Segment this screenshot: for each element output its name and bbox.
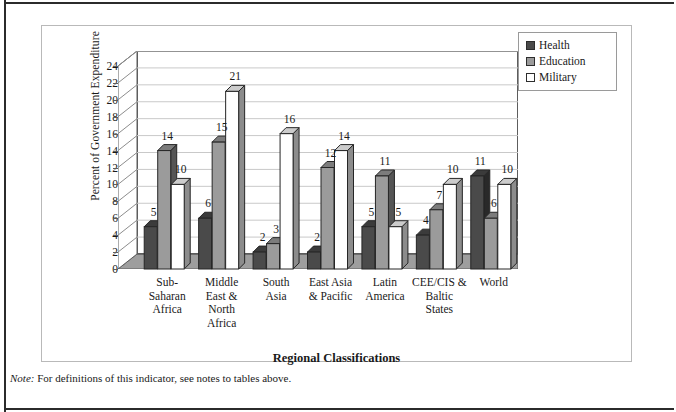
page-rule-left [4,0,6,412]
bar-value-label: 3 [264,224,288,235]
bar-value-label: 10 [169,164,193,175]
y-tick-mark [113,269,118,270]
bar-military-0[interactable] [171,178,190,269]
x-axis-title: Regional Classifications [42,351,631,366]
legend-label-military: Military [539,72,577,83]
bar-military-6[interactable] [498,178,517,269]
legend-item-education[interactable]: Education [526,56,610,67]
bar-value-label: 21 [223,71,247,82]
bar-military-4[interactable] [389,221,408,269]
chart-legend: Health Education Military [518,32,617,91]
figure-note: Note: For definitions of this indicator,… [10,372,291,384]
x-category-line: World [460,276,528,290]
legend-swatch-education [526,57,535,66]
bar-value-label: 10 [441,164,465,175]
bar-military-2[interactable] [280,128,299,269]
bar-value-label: 5 [386,207,410,218]
bar-value-label: 5 [359,207,383,218]
page-rule-bottom [4,408,674,410]
x-category-line: Africa [188,317,256,331]
legend-item-health[interactable]: Health [526,40,610,51]
x-category-line: North [188,303,256,317]
x-category-label: World [460,276,528,290]
x-category-line: Baltic [405,290,473,304]
bars-layer: 51410615212316212145115471011610 [118,51,518,269]
bar-value-label: 7 [427,190,451,201]
bar-value-label: 2 [305,232,329,243]
bar-value-label: 11 [468,156,492,167]
page-rule-top [4,2,674,4]
bar-value-label: 11 [373,156,397,167]
figure-note-prefix: Note: [10,372,34,384]
legend-item-military[interactable]: Military [526,72,610,83]
bar-value-label: 15 [210,122,234,133]
bar-military-3[interactable] [335,145,354,269]
x-category-line: States [405,303,473,317]
bar-value-label: 14 [332,131,356,142]
legend-label-health: Health [539,40,570,51]
plot-area: 51410615212316212145115471011610 [118,51,518,269]
legend-swatch-health [526,41,535,50]
legend-label-education: Education [539,56,586,67]
figure-container: Percent of Government Expenditure 024681… [41,25,632,362]
bar-value-label: 14 [155,131,179,142]
figure-note-text: For definitions of this indicator, see n… [37,372,291,384]
legend-swatch-military [526,73,535,82]
bar-value-label: 6 [196,198,220,209]
y-axis-ticks: 024681012141618202224 [74,51,118,271]
bar-military-1[interactable] [226,85,245,269]
bar-value-label: 6 [482,198,506,209]
bar-value-label: 5 [142,207,166,218]
bar-value-label: 4 [414,215,438,226]
bar-chart: Percent of Government Expenditure 024681… [42,26,631,361]
bar-value-label: 10 [495,164,519,175]
bar-value-label: 12 [319,148,343,159]
bar-value-label: 16 [278,114,302,125]
